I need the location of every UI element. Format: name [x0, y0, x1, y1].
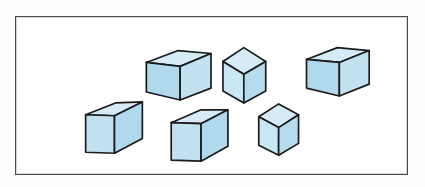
cube-5 [171, 110, 228, 161]
cube-stage [16, 17, 407, 174]
cube-4 [86, 102, 143, 153]
figure-frame-border [15, 16, 408, 175]
cube-5-front-face [171, 123, 201, 162]
cube-1-left-face [146, 62, 180, 100]
cubes-svg [16, 17, 407, 174]
cube-3 [307, 48, 370, 96]
cube-2 [223, 48, 266, 103]
cube-4-front-face [86, 115, 115, 154]
cube-1 [146, 51, 211, 100]
cube-3-left-face [307, 59, 340, 96]
figure-page: Six separate unit cubes Line drawing of … [0, 0, 425, 187]
cube-6 [259, 104, 299, 155]
